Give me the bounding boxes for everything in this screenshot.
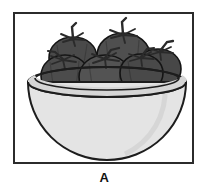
panel-label: A (0, 170, 209, 186)
bowl-of-tomatoes-illustration (15, 14, 192, 162)
illustration-frame (13, 12, 194, 164)
figure-panel: A (0, 0, 209, 192)
